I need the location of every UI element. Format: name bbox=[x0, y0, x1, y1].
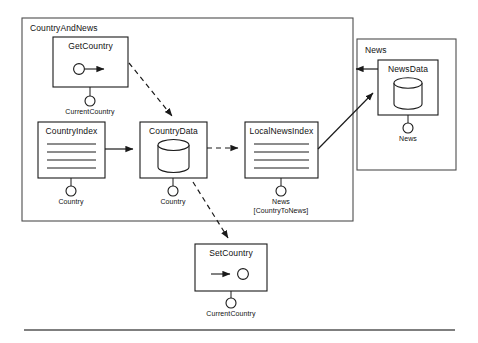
port-set-country-currentcountry[interactable] bbox=[226, 291, 236, 308]
port-label-local-news-index-binding: [CountryToNews] bbox=[241, 207, 321, 216]
package-label-news: News bbox=[365, 45, 387, 55]
title-country-index: CountryIndex bbox=[38, 126, 105, 136]
port-label-country-data: Country bbox=[138, 198, 208, 207]
title-country-data: CountryData bbox=[140, 126, 207, 136]
port-label-country-index: Country bbox=[36, 198, 106, 207]
port-label-get-country: CurrentCountry bbox=[50, 108, 130, 117]
diagram-vector-layer bbox=[0, 0, 478, 343]
title-local-news-index: LocalNewsIndex bbox=[243, 126, 320, 136]
database-cylinder-icon bbox=[158, 140, 189, 173]
connector-local-news-index-to-news-data bbox=[318, 93, 373, 149]
port-country-index-country[interactable] bbox=[66, 178, 76, 196]
title-news-data: NewsData bbox=[378, 64, 438, 74]
package-label-country-and-news: CountryAndNews bbox=[30, 23, 98, 33]
port-local-news-index-news[interactable] bbox=[276, 178, 286, 196]
title-get-country: GetCountry bbox=[53, 41, 128, 51]
port-label-news-data: News bbox=[378, 135, 438, 144]
database-cylinder-icon bbox=[394, 78, 422, 109]
connector-country-data-to-set-country bbox=[193, 182, 228, 238]
port-label-local-news-index: News bbox=[241, 198, 321, 207]
port-country-data-country[interactable] bbox=[168, 178, 178, 196]
title-set-country: SetCountry bbox=[195, 248, 267, 258]
port-label-set-country: CurrentCountry bbox=[191, 310, 271, 319]
port-news-data-news[interactable] bbox=[403, 115, 413, 133]
diagram-canvas: CountryAndNews News GetCountry CurrentCo… bbox=[0, 0, 478, 343]
port-get-country-currentcountry[interactable] bbox=[85, 87, 95, 106]
connector-get-country-to-country-data bbox=[129, 63, 172, 116]
